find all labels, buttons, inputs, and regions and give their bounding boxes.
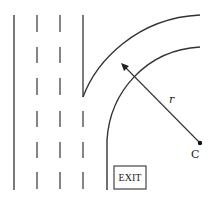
center-point <box>198 141 202 145</box>
exit-ramp-diagram: r C EXIT <box>0 0 212 200</box>
radius-label: r <box>169 93 175 106</box>
exit-sign-label: EXIT <box>119 172 142 183</box>
ramp-outer-arc <box>83 15 200 97</box>
radius-arrow <box>125 67 200 143</box>
center-label: C <box>191 148 199 161</box>
